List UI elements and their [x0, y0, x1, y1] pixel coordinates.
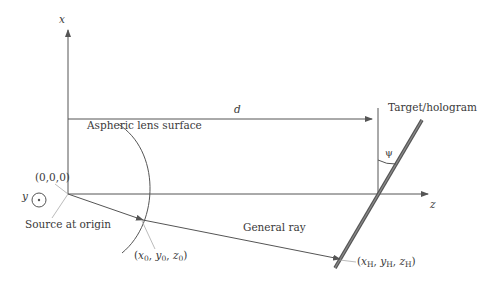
hologram-point-label: (xH, yH, zH): [357, 256, 416, 269]
angle-psi-label: ψ: [385, 148, 393, 158]
target-label: Target/hologram: [388, 102, 477, 113]
lens-point-z-sub: 0: [178, 254, 183, 263]
hologram-point-z-sub: H: [405, 260, 412, 269]
ray-label: General ray: [243, 222, 306, 233]
ray-segment-1: [68, 194, 143, 220]
y-axis-dot-icon: [38, 199, 40, 201]
z-axis-label: z: [430, 199, 436, 210]
hologram-point-x-sub: H: [367, 260, 374, 269]
lens-point-label: (x0, y0, z0): [134, 250, 187, 263]
lens-point-leader: [142, 221, 155, 249]
hologram-point-leader: [340, 260, 356, 262]
distance-label: d: [234, 104, 241, 115]
lens-surface-curve: [118, 124, 150, 253]
hologram-point-y-sub: H: [386, 260, 393, 269]
lens-label: Aspheric lens surface: [87, 120, 202, 131]
angle-psi-arc: [378, 160, 396, 164]
origin-leader: [55, 184, 68, 194]
y-axis-label: y: [22, 191, 28, 202]
source-leader: [52, 194, 68, 218]
lens-point-x-sub: 0: [144, 254, 149, 263]
diagram-canvas: [0, 0, 486, 281]
lens-point-y-sub: 0: [161, 254, 166, 263]
x-axis-label: x: [59, 14, 65, 25]
source-label: Source at origin: [25, 219, 111, 230]
origin-label: (0,0,0): [35, 172, 70, 183]
